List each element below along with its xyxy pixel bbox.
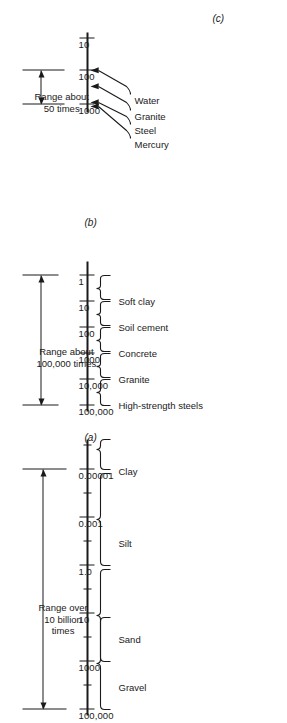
panel-c-pointer-leaders: [86, 18, 132, 168]
panel-c-range-arrow-right: [38, 70, 44, 77]
panel-a-tick-minor-4: [83, 540, 91, 541]
panel-b-group-label-soft-clay: Soft clay: [118, 295, 154, 306]
panel-b-group-brackets: [96, 256, 112, 411]
panel-a-tick-minor-3: [83, 588, 91, 589]
panel-a-range-arrow-left: [40, 702, 46, 709]
panel-a-caption: (a): [84, 431, 96, 442]
figure-canvas: 100,000 1000 10 1.0 0.001 0.00001 Range …: [0, 0, 287, 723]
panel-b-tick-label-1: 1: [78, 275, 83, 286]
panel-c-pointer-label-steel: Steel: [134, 124, 156, 135]
panel-b: 100,000 10,000 1000 100 10 1 Range about…: [0, 208, 287, 423]
panel-b-range-arrow-right: [38, 275, 44, 282]
panel-c-range-label: Range about 50 times: [34, 90, 88, 113]
panel-c-pointer-label-granite: Granite: [134, 110, 165, 121]
panel-b-group-label-granite: Granite: [118, 373, 149, 384]
panel-a-group-brackets: [96, 435, 112, 715]
panel-a-tick-minor-1: [83, 684, 91, 685]
panel-c-caption: (c): [212, 12, 224, 23]
panel-b-group-label-soil-cement: Soil cement: [118, 321, 168, 332]
panel-a-tick-label-1p0: 1.0: [78, 565, 92, 576]
panel-c-pointer-label-mercury: Mercury: [134, 138, 168, 149]
panel-a-range-bar: [42, 469, 43, 708]
panel-b-range-label: Range about 100,000 times: [36, 345, 96, 368]
panel-a-range-arrow-right: [40, 469, 46, 476]
panel-a-group-label-clay: Clay: [118, 465, 137, 476]
panel-a-range-label: Range over 10 billion times: [38, 601, 87, 636]
panel-a-tick-minor-5: [83, 492, 91, 493]
panel-c: 1000 100 10 Range about 50 times Mercury…: [0, 0, 287, 208]
panel-a-group-label-silt: Silt: [118, 537, 131, 548]
panel-c-pointer-label-water: Water: [134, 94, 159, 105]
panel-b-group-label-high-strength-steels: High-strength steels: [118, 399, 202, 410]
panel-b-group-label-concrete: Concrete: [118, 347, 157, 358]
panel-b-range-arrow-left: [38, 398, 44, 405]
panel-a: 100,000 1000 10 1.0 0.001 0.00001 Range …: [0, 423, 287, 723]
panel-a-tick-minor-6: [83, 444, 91, 445]
panel-a-group-label-sand: Sand: [118, 633, 140, 644]
panel-b-tick-label-100: 100: [78, 327, 94, 338]
panel-a-group-label-gravel: Gravel: [118, 681, 146, 692]
panel-b-range-bar: [40, 275, 41, 404]
panel-b-tick-label-10: 10: [78, 301, 89, 312]
panel-b-caption: (b): [84, 216, 96, 227]
